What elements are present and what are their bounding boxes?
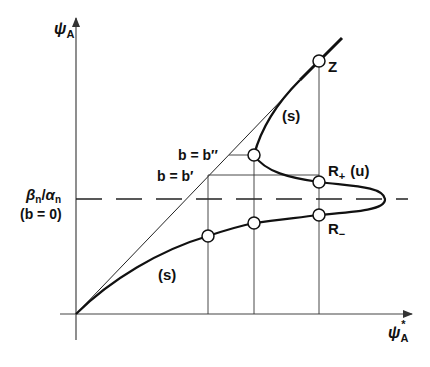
point-r-plus-marker [313, 176, 325, 188]
level-label-b-zero: (b = 0) [20, 206, 62, 222]
b-double-prime-label: b = b′′ [178, 147, 218, 163]
point-z-marker [313, 55, 325, 67]
stable-lower-label: (s) [158, 266, 176, 283]
x-axis-label: ψA* [388, 318, 408, 344]
stable-upper-label: (s) [282, 107, 300, 124]
bifurcation-diagram: ψA ψA* βn/αn (b = 0) b = b′′ b = b′ Z R+… [0, 0, 430, 367]
point-r-minus-label: R− [328, 220, 345, 240]
point-r-minus-marker [313, 209, 325, 221]
point-lower-mid-marker [248, 217, 260, 229]
point-z-label: Z [328, 58, 337, 75]
b-prime-label: b = b′ [157, 168, 194, 184]
point-r-plus-label: R+(u) [328, 162, 369, 182]
level-label-ratio: βn/αn [25, 186, 61, 205]
point-b-double-prime-marker [248, 149, 260, 161]
point-lower-left-marker [202, 230, 214, 242]
curve-lower-stable [76, 215, 319, 314]
y-axis-label: ψA [54, 20, 74, 40]
